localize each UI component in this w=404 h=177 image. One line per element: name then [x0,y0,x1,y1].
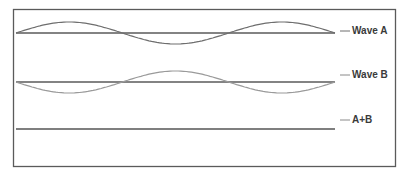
sum-label: A+B [352,114,372,125]
wave-b-label: Wave B [352,69,388,80]
interference-diagram: Wave A Wave B A+B [0,0,404,177]
wave-a-label: Wave A [352,25,387,36]
